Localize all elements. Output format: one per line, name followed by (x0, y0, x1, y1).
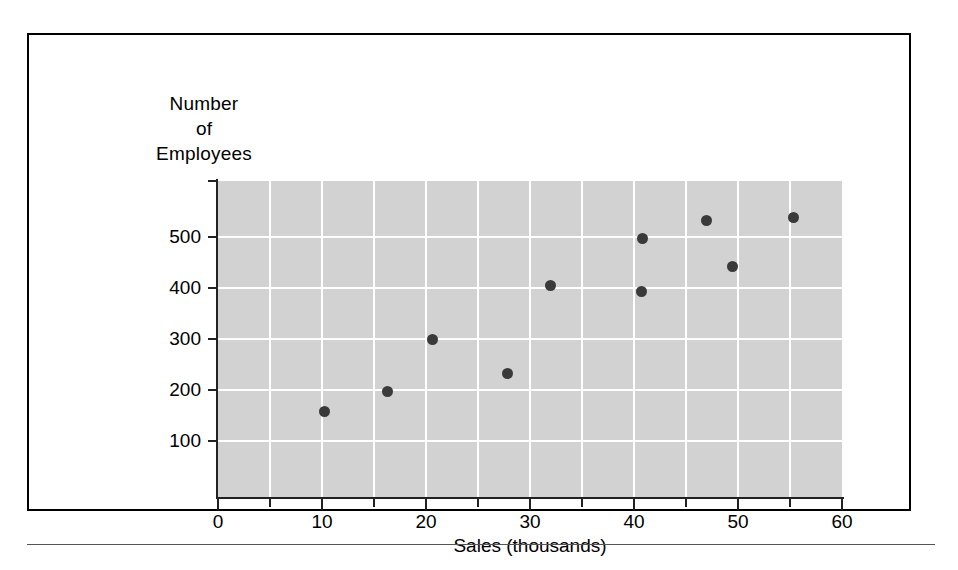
x-axis-minor-tick (685, 499, 687, 507)
x-axis-tick-label: 20 (401, 512, 451, 532)
x-axis-tick-label: 40 (609, 512, 659, 532)
x-axis-tick (633, 499, 635, 510)
y-axis-tick-labels: 100200300400500 (137, 35, 201, 570)
x-axis-minor-tick (581, 499, 583, 507)
figure-frame: Number of Employees 100200300400500 Sale… (27, 33, 911, 511)
x-axis-tick-label: 0 (193, 512, 243, 532)
x-axis-tick (217, 499, 219, 510)
gridline-horizontal (218, 440, 842, 442)
y-axis-tick-label: 100 (141, 431, 201, 450)
gridline-horizontal (218, 389, 842, 391)
x-axis-tick (737, 499, 739, 510)
gridline-horizontal (218, 287, 842, 289)
data-point (427, 334, 438, 345)
x-axis-minor-tick (373, 499, 375, 507)
x-axis-tick-label: 50 (713, 512, 763, 532)
x-axis-tick-label: 10 (297, 512, 347, 532)
y-axis-tick (208, 338, 218, 340)
data-point (727, 261, 738, 272)
data-point (701, 215, 712, 226)
x-axis-tick-label: 30 (505, 512, 555, 532)
data-point (502, 368, 513, 379)
x-axis-minor-tick (477, 499, 479, 507)
gridline-horizontal (218, 338, 842, 340)
y-axis-tick (208, 389, 218, 391)
x-axis-minor-tick (269, 499, 271, 507)
data-point (382, 386, 393, 397)
y-axis-tick (208, 440, 218, 442)
plot-area (218, 181, 842, 497)
gridline-horizontal (218, 236, 842, 238)
y-axis-tick-label: 500 (141, 227, 201, 246)
x-axis-tick (321, 499, 323, 510)
data-point (319, 406, 330, 417)
data-point (636, 286, 647, 297)
x-axis-tick-label: 60 (817, 512, 867, 532)
y-axis-tick-label: 300 (141, 329, 201, 348)
x-axis-tick (529, 499, 531, 510)
data-point (545, 280, 556, 291)
y-axis-tick (208, 236, 218, 238)
y-axis-top-cap-tick (208, 180, 218, 182)
y-axis-tick-label: 400 (141, 278, 201, 297)
x-axis-tick (425, 499, 427, 510)
x-axis-tick (841, 499, 843, 510)
y-axis-tick (208, 287, 218, 289)
y-axis-tick-label: 200 (141, 380, 201, 399)
x-axis-minor-tick (789, 499, 791, 507)
bottom-rule (27, 544, 935, 545)
data-point (788, 212, 799, 223)
data-point (637, 233, 648, 244)
x-axis-title: Sales (thousands) (218, 535, 842, 557)
